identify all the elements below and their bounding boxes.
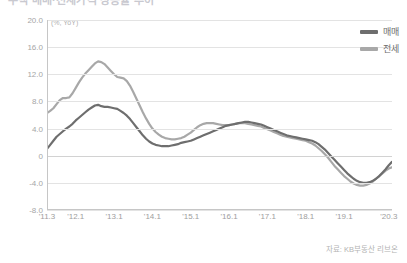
x-axis-tick-labels: '11.3'12.1'13.1'14.1'15.1'16.1'17.1'18.1… — [47, 212, 392, 226]
x-axis-line — [47, 209, 392, 210]
x-tick-label: '18.1 — [297, 212, 314, 221]
legend-label: 매매 — [383, 25, 399, 38]
gridline — [47, 183, 392, 184]
x-tick-label: '19.1 — [336, 212, 353, 221]
legend-swatch-icon — [360, 47, 378, 51]
y-tick-label: 4.0 — [32, 124, 43, 133]
y-tick-label: 12.0 — [27, 70, 43, 79]
gridline — [47, 47, 392, 48]
y-tick-label: 0 — [39, 151, 43, 160]
x-tick-label: '12.1 — [67, 212, 84, 221]
gridline — [47, 20, 392, 21]
gridline — [47, 129, 392, 130]
legend-swatch-icon — [360, 30, 378, 34]
x-tick-label: '17.1 — [259, 212, 276, 221]
gridline — [47, 74, 392, 75]
legend-item[interactable]: 전세 — [360, 42, 399, 55]
x-tick-label: '11.3 — [39, 212, 56, 221]
series-lines — [47, 20, 392, 210]
y-tick-label: 20.0 — [27, 16, 43, 25]
y-axis-line — [47, 20, 48, 210]
y-tick-label: 8.0 — [32, 97, 43, 106]
chart-title: 주택 매매·전세가격 상승률 추이 — [8, 0, 154, 7]
y-axis-tick-labels: 20.016.012.08.04.00-4.0-8.0 — [0, 20, 43, 210]
chart-container: 주택 매매·전세가격 상승률 추이 (%, YoY) 20.016.012.08… — [0, 0, 407, 263]
x-tick-label: '13.1 — [106, 212, 123, 221]
y-tick-label: -4.0 — [29, 178, 43, 187]
plot-area — [47, 20, 392, 210]
legend: 매매전세 — [360, 25, 399, 55]
gridline — [47, 210, 392, 211]
zero-gridline — [47, 156, 392, 157]
legend-label: 전세 — [383, 42, 399, 55]
y-tick-label: 16.0 — [27, 43, 43, 52]
legend-item[interactable]: 매매 — [360, 25, 399, 38]
x-tick-label: '15.1 — [182, 212, 199, 221]
x-tick-label: '20.3 — [380, 212, 397, 221]
x-tick-label: '16.1 — [221, 212, 238, 221]
gridline — [47, 101, 392, 102]
x-tick-label: '14.1 — [144, 212, 161, 221]
source-note: 자료: KB부동산 리브온 — [326, 243, 398, 254]
